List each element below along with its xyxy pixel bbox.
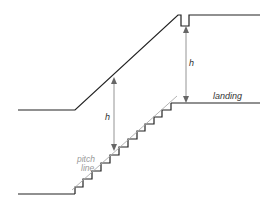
label-line: line [81, 163, 95, 173]
stair-steps [75, 103, 171, 194]
stair-headroom-diagram: h h landing pitch line [0, 0, 277, 212]
label-h-right: h [189, 58, 194, 68]
label-landing: landing [213, 91, 242, 101]
headroom-dimension-left [111, 77, 117, 151]
arrow-up-icon [183, 26, 189, 33]
label-h-left: h [105, 112, 110, 122]
arrow-up-icon [111, 77, 117, 84]
arrow-down-icon [183, 96, 189, 103]
pitch-line [72, 96, 177, 190]
